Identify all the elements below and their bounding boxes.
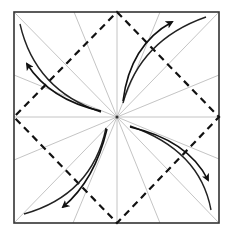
center-point: [116, 116, 119, 119]
background: [0, 0, 226, 233]
origami-diagram: [0, 0, 226, 233]
